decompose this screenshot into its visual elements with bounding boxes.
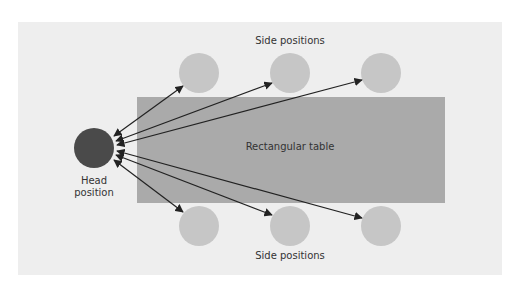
bottom-side-positions-label: Side positions: [240, 250, 340, 262]
table-label: Rectangular table: [235, 141, 345, 153]
head-label-line1: Head: [64, 175, 124, 187]
top-side-seats: [179, 53, 401, 93]
bottom-side-seats: [179, 206, 401, 246]
top-side-positions-label: Side positions: [240, 35, 340, 47]
head-position-label: Head position: [64, 175, 124, 199]
head-seat: [74, 128, 114, 168]
head-label-line2: position: [64, 187, 124, 199]
